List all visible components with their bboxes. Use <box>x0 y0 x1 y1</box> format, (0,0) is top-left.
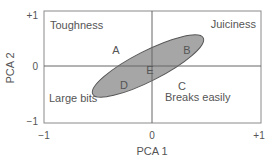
x-axis-title: PCA 1 <box>136 145 167 157</box>
point-c: C <box>178 80 186 92</box>
point-a: A <box>112 44 120 56</box>
y-axis-title: PCA 2 <box>4 52 16 83</box>
pca-diagram: Toughness Juiciness Large bits Breaks ea… <box>0 0 270 163</box>
point-e: E <box>146 64 153 76</box>
quadrant-label-bottom-left: Large bits <box>49 92 98 104</box>
y-tick-max: +1 <box>27 10 39 21</box>
x-tick-min: −1 <box>38 130 50 141</box>
quadrant-label-bottom-right: Breaks easily <box>165 91 231 103</box>
point-d: D <box>120 79 128 91</box>
y-tick-min: −1 <box>27 116 39 127</box>
point-b: B <box>183 44 190 56</box>
y-tick-mid: 0 <box>32 61 38 72</box>
x-tick-mid: 0 <box>149 130 155 141</box>
quadrant-label-top-left: Toughness <box>50 19 104 31</box>
x-tick-max: +1 <box>253 130 265 141</box>
quadrant-label-top-right: Juiciness <box>211 18 257 30</box>
